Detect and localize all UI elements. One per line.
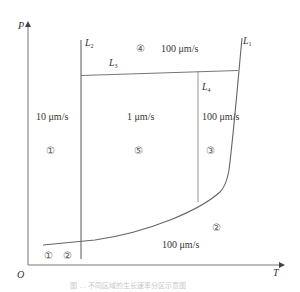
region-3-rate: 100 μm/s (202, 112, 239, 122)
region-2-rate: 100 μm/s (162, 240, 199, 250)
region-1-rate: 10 μm/s (36, 112, 68, 122)
region-4-number: ④ (136, 44, 145, 54)
region-5-number: ⑤ (134, 146, 143, 156)
region-4-rate: 100 μm/s (161, 44, 198, 54)
y-axis-label: P (18, 21, 24, 31)
label-l4: L4 (202, 82, 211, 93)
line-l1 (43, 38, 242, 245)
x-axis-label: T (273, 268, 279, 278)
bottom-region-1-number: ① (44, 251, 53, 261)
figure-caption: 图 … 不同区域的生长速率分区示意图 (70, 280, 186, 290)
bottom-region-2-number: ② (63, 251, 72, 261)
region-3-number: ③ (206, 146, 215, 156)
region-2-number: ② (212, 223, 221, 233)
line-l3 (81, 71, 238, 76)
origin-label: O (17, 270, 24, 280)
region-5-rate: 1 μm/s (127, 112, 154, 122)
label-l2: L2 (85, 38, 94, 49)
phase-diagram (0, 0, 300, 292)
label-l3: L3 (109, 58, 118, 69)
region-1-number: ① (46, 146, 55, 156)
label-l1: L1 (243, 36, 252, 47)
